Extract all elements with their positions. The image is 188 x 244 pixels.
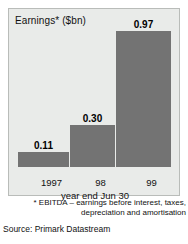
bar-group-98: 0.30 <box>70 9 115 167</box>
footnote-line-2: depreciation and amortisation <box>8 208 186 218</box>
bar-1997 <box>18 152 69 167</box>
bar-group-99: 0.97 <box>116 9 171 167</box>
x-tick-label-99: 99 <box>124 177 179 188</box>
bar-99 <box>116 31 171 167</box>
x-tick-label-1997: 1997 <box>26 177 77 188</box>
x-axis-tick-labels: 1997 98 99 <box>26 177 179 190</box>
bar-value-label: 0.30 <box>70 113 115 124</box>
plot-area: 0.11 0.30 0.97 <box>18 9 171 167</box>
x-tick-label-98: 98 <box>78 177 123 188</box>
chart-footnote: * EBITDA – earnings before interest, tax… <box>8 198 186 218</box>
footnote-line-1: * EBITDA – earnings before interest, tax… <box>8 198 186 208</box>
bar-value-label: 0.11 <box>18 140 69 151</box>
bar-98 <box>70 125 115 167</box>
chart-panel: Earnings* ($bn) 0.11 0.30 0.97 1997 98 9… <box>8 8 180 196</box>
bar-value-label: 0.97 <box>116 19 171 30</box>
bar-group-1997: 0.11 <box>18 9 69 167</box>
source-attribution: Source: Primark Datastream <box>3 224 110 234</box>
